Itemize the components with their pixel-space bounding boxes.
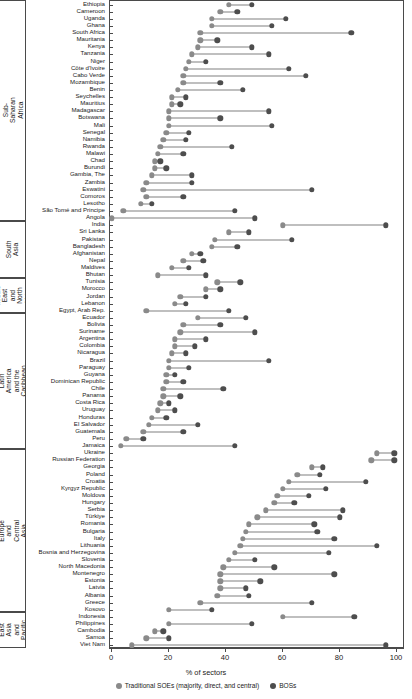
- x-tick-label: 0: [109, 653, 113, 662]
- y-axis-tick: [110, 496, 113, 497]
- data-point-bos: [161, 628, 166, 633]
- data-point-soe: [152, 159, 157, 164]
- data-point-bos: [332, 536, 337, 541]
- connector-line: [158, 274, 206, 276]
- data-point-soe: [143, 194, 148, 199]
- data-point-bos: [183, 351, 188, 356]
- connector-line: [277, 495, 308, 497]
- y-axis-tick: [110, 268, 113, 269]
- y-axis-tick: [110, 282, 113, 283]
- data-point-soe: [238, 543, 243, 548]
- data-point-soe: [169, 102, 174, 107]
- y-axis-tick: [110, 453, 113, 454]
- connector-line: [246, 531, 317, 533]
- data-point-soe: [161, 386, 166, 391]
- region-axis: Sub-Saharan AfricaSouth AsiaMiddle East …: [0, 0, 26, 648]
- data-point-soe: [166, 365, 171, 370]
- y-axis-tick: [110, 62, 113, 63]
- connector-line: [112, 217, 255, 219]
- data-point-bos: [218, 80, 223, 85]
- y-axis-tick: [110, 33, 113, 34]
- data-point-soe: [181, 322, 186, 327]
- y-axis-tick: [110, 332, 113, 333]
- data-point-bos: [220, 386, 225, 391]
- y-axis-tick: [110, 311, 113, 312]
- y-axis-tick: [110, 524, 113, 525]
- data-point-soe: [163, 130, 168, 135]
- data-point-soe: [280, 486, 285, 491]
- data-point-soe: [369, 458, 374, 463]
- data-point-bos: [203, 272, 208, 277]
- data-point-bos: [200, 258, 205, 263]
- data-point-soe: [172, 344, 177, 349]
- data-point-bos: [195, 422, 200, 427]
- connector-line: [198, 46, 252, 48]
- connector-line: [283, 616, 354, 618]
- data-point-bos: [249, 45, 254, 50]
- connector-line: [243, 538, 334, 540]
- data-point-soe: [161, 394, 166, 399]
- y-axis-tick: [110, 361, 113, 362]
- legend-label-soe: Traditional SOEs (majority, direct, and …: [125, 682, 260, 689]
- data-point-soe: [203, 287, 208, 292]
- data-point-soe: [246, 522, 251, 527]
- data-point-bos: [240, 87, 245, 92]
- data-point-bos: [189, 173, 194, 178]
- data-point-bos: [246, 230, 251, 235]
- connector-line: [220, 573, 334, 575]
- y-axis-tick: [110, 161, 113, 162]
- data-point-soe: [172, 301, 177, 306]
- data-point-soe: [218, 9, 223, 14]
- y-axis-tick: [110, 76, 113, 77]
- y-axis-tick: [110, 631, 113, 632]
- data-point-bos: [249, 621, 254, 626]
- connector-line: [132, 644, 386, 646]
- x-tick-label: 20: [164, 653, 172, 662]
- data-point-soe: [286, 479, 291, 484]
- region-group-europe-and-central-asia: Europe and Central Asia: [0, 449, 26, 613]
- data-point-bos: [209, 607, 214, 612]
- data-point-bos: [249, 2, 254, 7]
- data-point-bos: [218, 287, 223, 292]
- y-axis-tick: [110, 225, 113, 226]
- y-axis-tick: [110, 539, 113, 540]
- data-point-bos: [203, 294, 208, 299]
- data-point-bos: [309, 600, 314, 605]
- y-axis-tick: [110, 97, 113, 98]
- connector-line: [283, 488, 326, 490]
- y-axis-tick: [110, 275, 113, 276]
- connector-line: [249, 523, 315, 525]
- region-group-sub-saharan-africa: Sub-Saharan Africa: [0, 0, 26, 221]
- y-axis-tick: [110, 467, 113, 468]
- y-axis-tick: [110, 5, 113, 6]
- region-group-latin-america-and-the-caribbean: Latin America and the Caribbean: [0, 313, 26, 448]
- y-axis-tick: [110, 204, 113, 205]
- data-point-bos: [178, 102, 183, 107]
- y-axis-tick: [110, 482, 113, 483]
- data-point-soe: [166, 358, 171, 363]
- x-tick: [111, 648, 112, 652]
- data-point-soe: [155, 408, 160, 413]
- data-point-soe: [124, 436, 129, 441]
- connector-line: [229, 559, 255, 561]
- y-axis-tick: [110, 19, 113, 20]
- data-point-soe: [152, 628, 157, 633]
- y-axis-tick: [110, 375, 113, 376]
- data-point-bos: [232, 443, 237, 448]
- data-point-bos: [149, 201, 154, 206]
- x-axis-title: % of sectors: [0, 668, 412, 677]
- plot-area: [109, 0, 404, 648]
- data-point-bos: [309, 187, 314, 192]
- legend-label-bos: BOSs: [279, 682, 296, 689]
- connector-line: [212, 246, 238, 248]
- data-point-bos: [235, 244, 240, 249]
- data-point-soe: [309, 465, 314, 470]
- legend-item-bos: BOSs: [270, 682, 296, 689]
- y-axis-tick: [110, 154, 113, 155]
- data-point-soe: [280, 223, 285, 228]
- region-label: Sub-Saharan Africa: [1, 98, 23, 124]
- data-point-soe: [181, 80, 186, 85]
- y-axis-tick: [110, 439, 113, 440]
- data-point-bos: [163, 415, 168, 420]
- data-point-bos: [243, 586, 248, 591]
